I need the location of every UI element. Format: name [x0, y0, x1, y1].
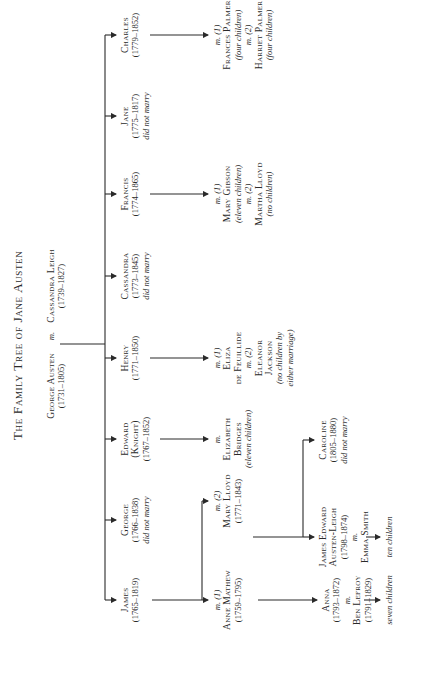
family-tree-diagram: The Family Tree of Jane Austen	[0, 0, 424, 691]
child-francis: Francis (1774–1865)	[120, 172, 141, 216]
spouse-anne-mathew: m. (1) Anne Mathew (1759–1795)	[212, 570, 243, 630]
spouse-mary-lloyd: m. (2) Mary Lloyd (1771–1843)	[212, 474, 243, 528]
spouse-name: Harriet Palmer	[254, 0, 264, 69]
child-charles: Charles (1779–1852)	[120, 13, 141, 57]
parents-marriage-label: m.	[46, 332, 56, 340]
father-name: George Austen	[46, 353, 56, 419]
grandchild-caroline: Caroline (1805–1880) did not marry	[318, 416, 349, 463]
child-dates: (1766–1838)	[130, 496, 140, 543]
grandchild-james-edward: James Edward Austen-Leigh (1798–1874) m.…	[318, 507, 370, 568]
spouse-name: Martha Lloyd	[254, 162, 264, 226]
spouse-dates: (1791–1829)	[363, 575, 373, 625]
spouse-name: Ben Lefroy	[352, 575, 362, 625]
issue-note: (four children)	[264, 0, 274, 69]
child-cassandra: Cassandra (1773–1845) did not marry	[120, 252, 151, 299]
spouses-henry: m. (1) Eliza de Feuillide m. (2) Eleanor…	[212, 329, 295, 386]
issue-note: (four children)	[233, 0, 243, 69]
issue-note: (eleven children)	[243, 410, 253, 468]
child-dates: (1773–1845)	[130, 252, 140, 299]
grandchild-dates: (1793–1872)	[331, 575, 341, 625]
child-dates: (1774–1865)	[130, 172, 140, 216]
child-name: Cassandra	[120, 252, 130, 299]
anna-issue: seven children	[384, 575, 394, 625]
spouse-name: de Feuillide	[233, 329, 243, 386]
spouse-name: Mary Gibson	[222, 162, 232, 226]
child-name: Jane	[120, 92, 130, 139]
child-dates: (1765–1819)	[130, 578, 140, 622]
spouse-elizabeth-bridges: m. Elizabeth Bridges (eleven children)	[212, 410, 254, 468]
child-name: James	[120, 578, 130, 622]
child-dates: (1767–1852)	[141, 417, 151, 461]
spouse-dates: (1771–1843)	[233, 474, 243, 528]
child-name: Francis	[120, 172, 130, 216]
issue-note: (no children by	[274, 329, 284, 386]
child-note: did not marry	[141, 252, 151, 299]
child-name: Charles	[120, 13, 130, 57]
spouse-name: Frances Palmer	[222, 0, 232, 69]
child-george: George (1766–1838) did not marry	[120, 496, 151, 543]
grandchild-name: Anna	[321, 575, 331, 625]
spouse-name: Anne Mathew	[222, 570, 232, 630]
spouse-name: Emma Smith	[360, 507, 370, 568]
child-name-alt: (Knight)	[130, 417, 140, 461]
child-jane: Jane (1775–1817) did not marry	[120, 92, 151, 139]
grandchild-anna: Anna (1793–1872) m. Ben Lefroy (1791–182…	[321, 575, 373, 625]
child-dates: (1771–1850)	[130, 336, 140, 380]
child-edward: Edward (Knight) (1767–1852)	[120, 417, 151, 461]
spouses-charles: m. (1) Frances Palmer (four children) m.…	[212, 0, 274, 69]
grandchild-dates: (1805–1880)	[328, 416, 338, 463]
grandchild-name: Austen-Leigh	[328, 507, 338, 568]
issue-note: either marriage)	[285, 329, 295, 386]
spouses-francis: m. (1) Mary Gibson (eleven children) m. …	[212, 162, 274, 226]
child-dates: (1775–1817)	[130, 92, 140, 139]
spouse-name: Jackson	[264, 329, 274, 386]
child-james: James (1765–1819)	[120, 578, 141, 622]
spouse-name: Mary Lloyd	[222, 474, 232, 528]
grandchild-note: did not marry	[339, 416, 349, 463]
james-edward-issue: ten children	[384, 517, 394, 558]
spouse-dates: (1759–1795)	[233, 570, 243, 630]
spouse-name: Bridges	[233, 410, 243, 468]
mother-node: Cassandra Leigh (1739–1827)	[46, 249, 67, 323]
child-name: George	[120, 496, 130, 543]
child-henry: Henry (1771–1850)	[120, 336, 141, 380]
issue-note: (eleven children)	[233, 162, 243, 226]
mother-name: Cassandra Leigh	[46, 249, 56, 323]
mother-dates: (1739–1827)	[56, 249, 66, 323]
father-node: George Austen (1731–1805)	[46, 353, 67, 419]
issue-note: (no children)	[264, 162, 274, 226]
child-name: Henry	[120, 336, 130, 380]
grandchild-name: Caroline	[318, 416, 328, 463]
child-dates: (1779–1852)	[130, 13, 140, 57]
child-note: did not marry	[141, 496, 151, 543]
grandchild-dates: (1798–1874)	[339, 507, 349, 568]
child-note: did not marry	[141, 92, 151, 139]
father-dates: (1731–1805)	[56, 353, 66, 419]
